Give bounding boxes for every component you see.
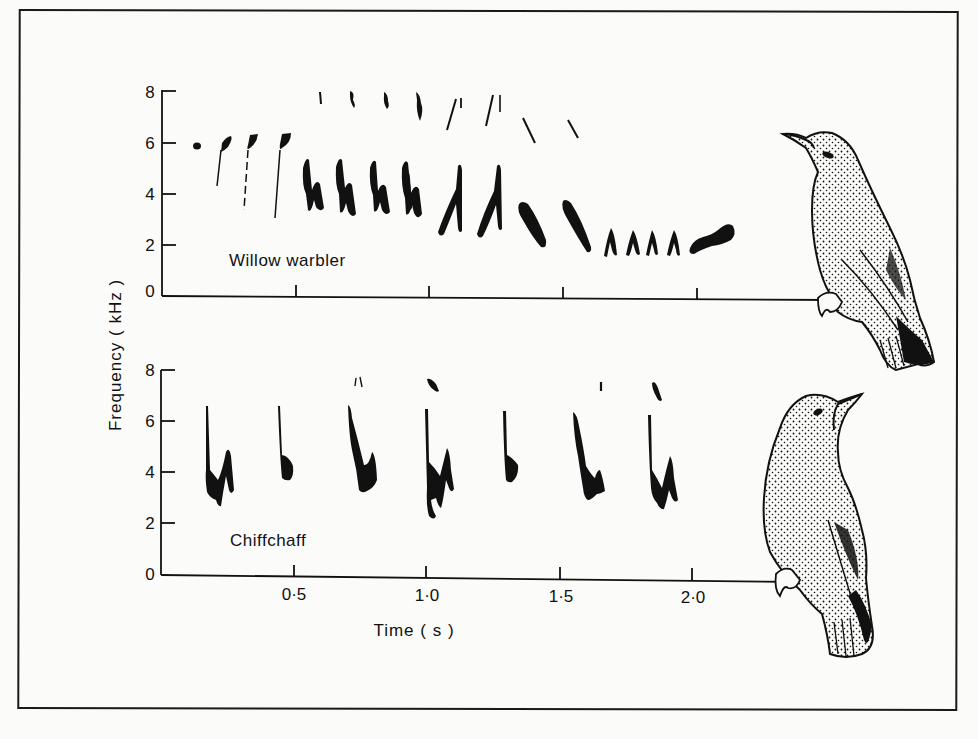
willow-warbler-illustration [783,132,934,370]
bottom-axes [161,370,800,582]
chiffchaff-illustration [764,394,873,657]
y-tick-8: 8 [145,83,154,102]
x-axis-title: Time ( s ) [373,621,454,640]
x-tick-0-5: 0·5 [282,585,307,604]
y-axis-title: Frequency ( kHz ) [106,279,125,431]
x-tick-1-5: 1·5 [549,587,574,606]
y-tick-6: 6 [145,134,154,153]
x-tick-1-0: 1·0 [415,586,440,605]
y-tick-2: 2 [145,514,154,533]
panel-chiffchaff: 0 2 4 6 8 0·5 1·0 1·5 2·0 Time ( s ) Chi… [145,361,800,640]
y-tick-6: 6 [145,412,154,431]
y-tick-2: 2 [145,236,154,255]
species-label-willow-warbler: Willow warbler [229,251,346,270]
x-tick-2-0: 2·0 [681,588,706,607]
panel-willow-warbler: 0 2 4 6 8 Willow warbler [145,83,830,301]
y-tick-0: 0 [145,282,154,301]
y-tick-0: 0 [145,565,154,584]
chiffchaff-spectrogram [206,377,678,519]
y-tick-4: 4 [145,185,154,204]
spectrogram-figure: Frequency ( kHz ) 0 2 4 6 8 Willow warbl… [0,0,978,739]
species-label-chiffchaff: Chiffchaff [230,531,306,550]
y-tick-8: 8 [145,361,154,380]
y-tick-4: 4 [145,463,154,482]
willow-warbler-spectrogram [193,91,735,257]
